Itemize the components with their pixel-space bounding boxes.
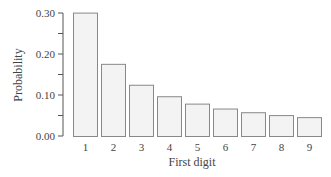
benford-bar-chart: 0.000.100.200.30 123456789 First digit P… <box>0 0 331 177</box>
bar-digit-2 <box>102 64 126 136</box>
x-tick-label: 4 <box>167 141 173 153</box>
x-axis-title: First digit <box>168 155 216 169</box>
bars <box>74 13 322 136</box>
bar-digit-6 <box>214 109 238 136</box>
bar-digit-7 <box>242 113 266 137</box>
y-tick-label: 0.20 <box>36 48 56 60</box>
x-tick-label: 9 <box>307 141 313 153</box>
y-tick-label: 0.10 <box>36 89 56 101</box>
y-tick-label: 0.00 <box>36 130 56 142</box>
y-axis: 0.000.100.200.30 <box>36 7 63 142</box>
bar-digit-1 <box>74 13 98 136</box>
x-tick-label: 2 <box>111 141 117 153</box>
x-tick-label: 8 <box>279 141 285 153</box>
x-tick-label: 3 <box>139 141 145 153</box>
bar-digit-5 <box>186 104 210 136</box>
x-tick-labels: 123456789 <box>83 141 313 153</box>
bar-digit-4 <box>158 97 182 137</box>
bar-digit-9 <box>298 118 322 137</box>
x-tick-label: 5 <box>195 141 201 153</box>
x-tick-label: 7 <box>251 141 257 153</box>
x-tick-label: 1 <box>83 141 89 153</box>
y-axis-title: Probability <box>11 48 25 101</box>
x-tick-label: 6 <box>223 141 229 153</box>
bar-digit-3 <box>130 85 154 136</box>
y-tick-label: 0.30 <box>36 7 56 19</box>
bar-digit-8 <box>270 116 294 137</box>
